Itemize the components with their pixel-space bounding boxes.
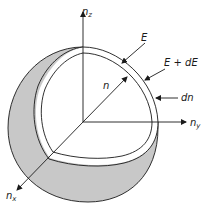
pointer-E [122,43,145,63]
x-axis-label: nx [6,190,17,203]
radius-label: n [103,80,109,91]
n-space-sphere-diagram: nz ny nx n E E + dE dn [0,0,206,210]
E-plus-dE-label: E + dE [164,57,198,68]
z-axis-label: nz [82,6,92,19]
pointer-E-plus-dE [145,69,165,80]
y-axis-label: ny [190,117,201,130]
E-label: E [141,32,148,43]
dn-label: dn [181,92,194,103]
